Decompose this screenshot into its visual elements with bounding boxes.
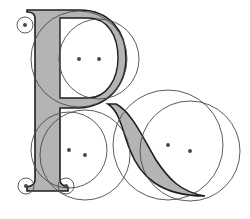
letter-r-glyph — [27, 10, 205, 196]
center-dot — [166, 143, 170, 147]
center-dot — [64, 184, 68, 188]
center-dot — [77, 57, 81, 61]
center-dot — [67, 148, 71, 152]
r-bowl-counter — [60, 18, 118, 98]
diagram-canvas — [0, 0, 250, 219]
center-dot — [83, 153, 87, 157]
center-dot — [97, 57, 101, 61]
center-dot — [188, 149, 192, 153]
letter-r-construction-diagram — [0, 0, 250, 219]
center-dot — [23, 23, 27, 27]
center-dot — [24, 184, 28, 188]
